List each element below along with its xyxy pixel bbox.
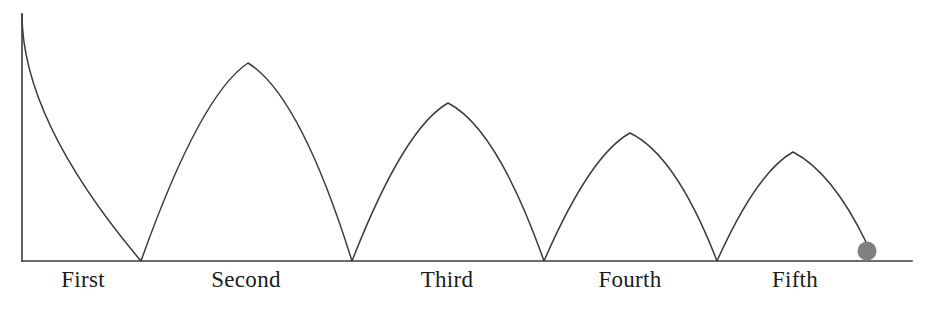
bounce-label-fifth: Fifth: [772, 268, 818, 291]
trajectory-chart-svg: [0, 0, 929, 309]
ball-marker: [858, 242, 877, 261]
bounce-label-first: First: [61, 268, 105, 291]
bouncing-ball-diagram: First Second Third Fourth Fifth: [0, 0, 929, 309]
bounce-label-third: Third: [421, 268, 474, 291]
ball-trajectory-path: [22, 14, 866, 261]
axes-group: [22, 14, 912, 261]
bounce-label-second: Second: [211, 268, 281, 291]
bounce-label-fourth: Fourth: [598, 268, 661, 291]
